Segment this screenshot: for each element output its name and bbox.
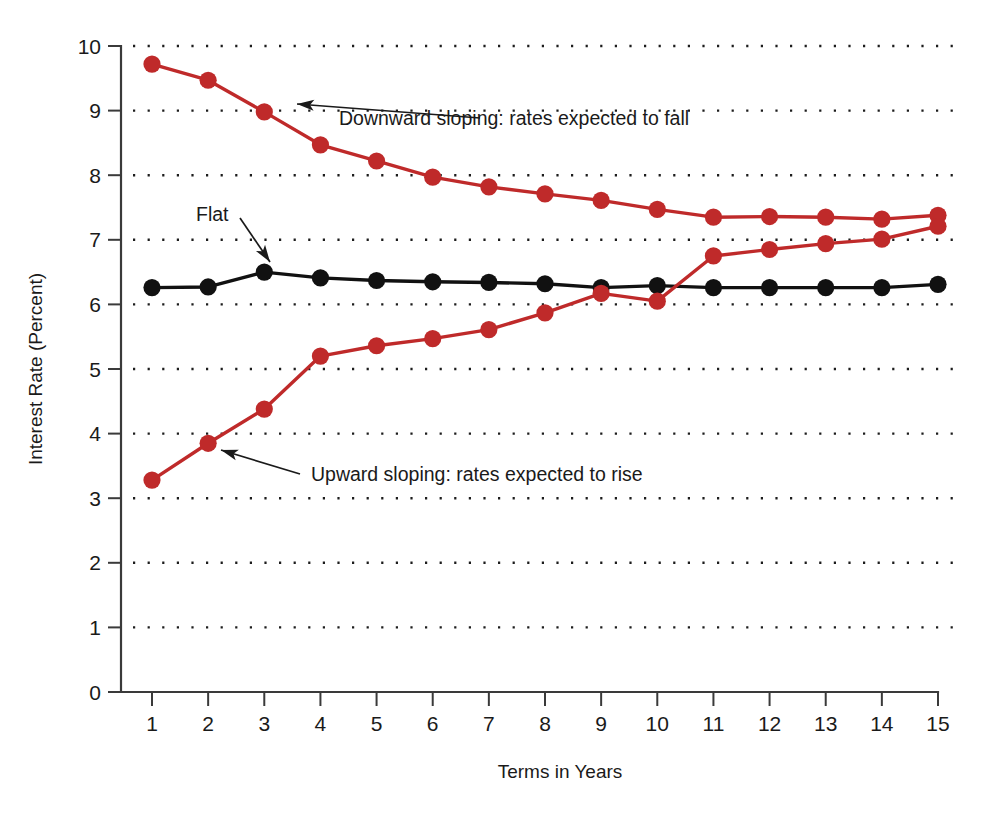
series-data-point xyxy=(593,285,610,302)
series-data-point xyxy=(312,136,329,153)
x-tick-label: 4 xyxy=(315,712,327,735)
series-data-point xyxy=(817,235,834,252)
y-tick-label: 2 xyxy=(89,551,101,574)
y-tick-label: 6 xyxy=(89,293,101,316)
series-data-point xyxy=(143,472,160,489)
series-data-point xyxy=(536,185,553,202)
series-data-point xyxy=(873,279,890,296)
x-tick-label: 10 xyxy=(646,712,669,735)
series-data-point xyxy=(480,178,497,195)
series-data-point xyxy=(761,279,778,296)
x-tick-label: 2 xyxy=(202,712,214,735)
series-data-point xyxy=(368,337,385,354)
x-tick-label: 13 xyxy=(814,712,837,735)
y-tick-label: 1 xyxy=(89,616,101,639)
series-data-point xyxy=(929,276,946,293)
series-data-point xyxy=(536,304,553,321)
series-data-point xyxy=(929,218,946,235)
annotation-label: Downward sloping: rates expected to fall xyxy=(339,107,689,129)
series-data-point xyxy=(873,211,890,228)
annotation-label: Upward sloping: rates expected to rise xyxy=(311,463,643,485)
series-data-point xyxy=(424,273,441,290)
series-data-point xyxy=(705,279,722,296)
y-tick-label: 7 xyxy=(89,228,101,251)
y-tick-label: 5 xyxy=(89,358,101,381)
x-tick-label: 8 xyxy=(539,712,551,735)
y-tick-label: 10 xyxy=(78,35,101,58)
series-data-point xyxy=(200,278,217,295)
x-axis-title: Terms in Years xyxy=(498,761,623,782)
x-tick-label: 11 xyxy=(703,712,725,735)
series-data-point xyxy=(705,209,722,226)
series-data-point xyxy=(312,347,329,364)
x-tick-label: 6 xyxy=(427,712,439,735)
series-data-point xyxy=(480,321,497,338)
yield-curve-chart: 012345678910 123456789101112131415 Inter… xyxy=(0,0,993,818)
annotation-label: Flat xyxy=(196,203,229,225)
y-axis-title: Interest Rate (Percent) xyxy=(25,273,46,465)
series-data-point xyxy=(536,275,553,292)
series-data-point xyxy=(761,208,778,225)
y-tick-label: 4 xyxy=(89,422,101,445)
x-tick-label: 5 xyxy=(371,712,383,735)
y-tick-label: 8 xyxy=(89,164,101,187)
x-tick-label: 14 xyxy=(870,712,894,735)
series-data-point xyxy=(649,293,666,310)
series-data-point xyxy=(256,103,273,120)
series-data-point xyxy=(649,201,666,218)
x-tick-label: 12 xyxy=(758,712,781,735)
series-data-point xyxy=(873,231,890,248)
series-data-point xyxy=(312,269,329,286)
series-data-point xyxy=(761,241,778,258)
series-data-point xyxy=(593,192,610,209)
series-data-point xyxy=(424,330,441,347)
series-data-point xyxy=(368,272,385,289)
x-tick-label: 15 xyxy=(926,712,949,735)
series-data-point xyxy=(480,274,497,291)
y-tick-label: 3 xyxy=(89,487,101,510)
x-tick-label: 1 xyxy=(146,712,158,735)
series-data-point xyxy=(256,400,273,417)
series-data-point xyxy=(200,72,217,89)
series-data-point xyxy=(424,169,441,186)
series-data-point xyxy=(705,247,722,264)
series-data-point xyxy=(256,264,273,281)
chart-figure: 012345678910 123456789101112131415 Inter… xyxy=(0,0,993,818)
series-data-point xyxy=(143,279,160,296)
series-data-point xyxy=(817,209,834,226)
x-tick-label: 7 xyxy=(483,712,495,735)
series-data-point xyxy=(368,152,385,169)
x-axis-tick-labels: 123456789101112131415 xyxy=(146,712,950,735)
series-data-point xyxy=(817,279,834,296)
series-data-point xyxy=(649,277,666,294)
x-tick-label: 3 xyxy=(258,712,270,735)
series-data-point xyxy=(143,55,160,72)
y-tick-label: 0 xyxy=(89,681,101,704)
x-tick-label: 9 xyxy=(595,712,607,735)
y-tick-label: 9 xyxy=(89,99,101,122)
series-data-point xyxy=(200,435,217,452)
